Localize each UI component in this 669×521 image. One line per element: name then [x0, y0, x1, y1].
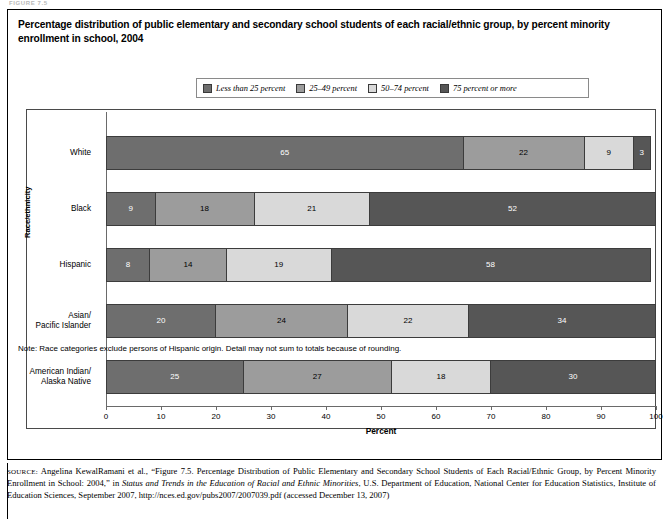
- legend-item[interactable]: 75 percent or more: [440, 84, 517, 93]
- bar-segment[interactable]: 52: [370, 192, 656, 226]
- legend-item-label: Less than 25 percent: [216, 84, 285, 93]
- bar-segment-value: 8: [126, 261, 130, 269]
- bar-category-label: Black: [0, 204, 91, 214]
- bar-segment[interactable]: 25: [106, 360, 244, 394]
- legend-item[interactable]: 25–49 percent: [296, 84, 357, 93]
- chart-legend: Less than 25 percent25–49 percent50–74 p…: [196, 78, 589, 98]
- legend-swatch-icon: [203, 84, 212, 93]
- bar-row: Hispanic8141958: [27, 248, 655, 282]
- bar-segment[interactable]: 24: [216, 304, 348, 338]
- bar-segment-value: 20: [157, 317, 166, 325]
- bar-segment[interactable]: 21: [255, 192, 371, 226]
- bar-segment[interactable]: 65: [106, 136, 464, 170]
- x-axis-tick-label: 40: [322, 412, 331, 421]
- legend-item[interactable]: 50–74 percent: [368, 84, 429, 93]
- bar-category-label: American Indian/ Alaska Native: [0, 367, 91, 387]
- figure-frame: Percentage distribution of public elemen…: [7, 9, 662, 460]
- bar-segment[interactable]: 34: [469, 304, 656, 338]
- bar-segment-value: 24: [277, 317, 286, 325]
- x-axis-tick: [491, 406, 492, 410]
- bar-segment[interactable]: 20: [106, 304, 216, 338]
- bar-segment-value: 30: [569, 373, 578, 381]
- legend-swatch-icon: [440, 84, 449, 93]
- bar-segment-value: 21: [307, 205, 316, 213]
- x-axis-tick-label: 80: [542, 412, 551, 421]
- x-axis-tick: [381, 406, 382, 410]
- bar-segment[interactable]: 27: [244, 360, 393, 394]
- x-axis-tick-label: 10: [157, 412, 166, 421]
- legend-item-label: 75 percent or more: [453, 84, 517, 93]
- x-axis-tick-label: 30: [267, 412, 276, 421]
- bar-segment-value: 3: [640, 149, 644, 157]
- bar-segment-value: 58: [486, 261, 495, 269]
- bar-row: Black9182152: [27, 192, 655, 226]
- x-axis-tick: [106, 406, 107, 410]
- bar-segment-value: 52: [508, 205, 517, 213]
- bar-segment-value: 9: [607, 149, 611, 157]
- figure-crumb: FIGURE 7.5: [9, 0, 48, 6]
- bar-segment[interactable]: 18: [392, 360, 491, 394]
- source-citation: SOURCE: Angelina KewalRamani et al., “Fi…: [7, 466, 662, 501]
- bar-segment-value: 27: [313, 373, 322, 381]
- bar-category-label: Asian/ Pacific Islander: [0, 311, 91, 331]
- x-axis-tick: [271, 406, 272, 410]
- bar-segment[interactable]: 18: [156, 192, 255, 226]
- bar-segment-value: 22: [519, 149, 528, 157]
- legend-item-label: 50–74 percent: [381, 84, 429, 93]
- stacked-bar: 652293: [106, 136, 656, 170]
- bar-segment[interactable]: 9: [106, 192, 156, 226]
- x-axis-tick: [656, 406, 657, 410]
- bar-segment[interactable]: 8: [106, 248, 150, 282]
- x-axis-tick-label: 90: [597, 412, 606, 421]
- x-axis-tick-label: 20: [212, 412, 221, 421]
- bar-segment-value: 9: [129, 205, 133, 213]
- bar-segment[interactable]: 14: [150, 248, 227, 282]
- bar-category-label: White: [0, 148, 91, 158]
- x-axis-tick: [216, 406, 217, 410]
- x-axis-tick-label: 0: [104, 412, 108, 421]
- bar-segment-value: 25: [170, 373, 179, 381]
- stacked-bar: 25271830: [106, 360, 656, 394]
- x-axis-tick-label: 60: [432, 412, 441, 421]
- bar-segment-value: 18: [200, 205, 209, 213]
- bar-segment[interactable]: 22: [348, 304, 469, 338]
- bar-segment-value: 65: [280, 149, 289, 157]
- bar-segment[interactable]: 9: [585, 136, 635, 170]
- bar-segment[interactable]: 3: [634, 136, 651, 170]
- bar-row: Asian/ Pacific Islander20242234: [27, 304, 655, 338]
- source-label: SOURCE:: [7, 468, 38, 476]
- bar-segment-value: 19: [274, 261, 283, 269]
- bar-segment-value: 18: [437, 373, 446, 381]
- bar-segment-value: 34: [558, 317, 567, 325]
- x-axis-tick: [601, 406, 602, 410]
- x-axis-tick: [161, 406, 162, 410]
- bar-segment[interactable]: 30: [491, 360, 656, 394]
- bar-segment[interactable]: 22: [464, 136, 585, 170]
- x-axis-tick: [436, 406, 437, 410]
- bar-row: American Indian/ Alaska Native25271830: [27, 360, 655, 394]
- bar-row: White652293: [27, 136, 655, 170]
- plot-area: Race/ethnicity Percent White652293Black9…: [26, 109, 656, 429]
- x-axis-tick: [546, 406, 547, 410]
- bar-segment[interactable]: 19: [227, 248, 332, 282]
- x-axis-tick: [326, 406, 327, 410]
- stacked-bar: 9182152: [106, 192, 656, 226]
- chart-note: Note: Race categories exclude persons of…: [18, 343, 648, 354]
- x-axis-tick-label: 100: [649, 412, 662, 421]
- x-axis-title: Percent: [106, 426, 656, 436]
- stacked-bar: 20242234: [106, 304, 656, 338]
- x-axis-tick-label: 50: [377, 412, 386, 421]
- stacked-bar: 8141958: [106, 248, 656, 282]
- legend-item-label: 25–49 percent: [309, 84, 357, 93]
- legend-item[interactable]: Less than 25 percent: [203, 84, 285, 93]
- bar-segment-value: 14: [184, 261, 193, 269]
- bar-segment-value: 22: [404, 317, 413, 325]
- source-publication-title: Status and Trends in the Education of Ra…: [122, 478, 359, 488]
- x-axis-tick-label: 70: [487, 412, 496, 421]
- legend-swatch-icon: [368, 84, 377, 93]
- bar-segment[interactable]: 58: [332, 248, 651, 282]
- legend-swatch-icon: [296, 84, 305, 93]
- bar-category-label: Hispanic: [0, 260, 91, 270]
- page-title: Percentage distribution of public elemen…: [18, 18, 648, 45]
